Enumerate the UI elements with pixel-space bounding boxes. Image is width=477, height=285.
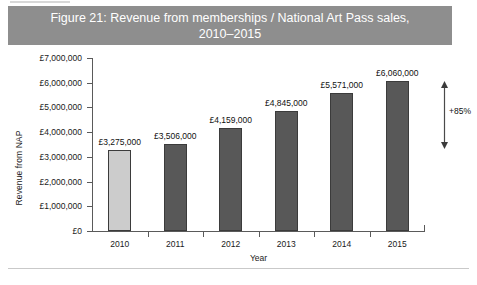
top-edge-artifact (0, 0, 477, 5)
y-axis-tick-label: £1,000,000 (18, 201, 82, 211)
y-axis-tick-label: £6,000,000 (18, 78, 82, 88)
y-axis-tick (87, 182, 92, 183)
y-axis-tick (87, 157, 92, 158)
bar-2010 (108, 150, 131, 231)
figure-title-banner: Figure 21: Revenue from memberships / Na… (8, 6, 452, 45)
x-axis-tick (148, 232, 149, 237)
y-axis-tick (87, 206, 92, 207)
bar-2014 (330, 93, 353, 231)
y-axis-tick (87, 107, 92, 108)
bar-value-label-2012: £4,159,000 (196, 115, 266, 125)
bar-value-label-2013: £4,845,000 (251, 98, 321, 108)
figure-title-line-1: Figure 21: Revenue from memberships / Na… (8, 10, 452, 26)
x-axis-title: Year (92, 253, 425, 263)
x-axis-tick-label-2010: 2010 (92, 239, 148, 249)
chart-plot-area: Revenue from NAP £0£1,000,000£2,000,000£… (0, 45, 477, 267)
bar-2012 (219, 128, 242, 231)
x-axis-tick-label-2012: 2012 (203, 239, 259, 249)
bar-2013 (275, 111, 298, 231)
bar-value-label-2011: £3,506,000 (140, 131, 210, 141)
x-axis-tick (370, 232, 371, 237)
x-axis-tick-label-2014: 2014 (314, 239, 370, 249)
y-axis-tick-label: £0 (18, 226, 82, 236)
x-axis-tick-label-2015: 2015 (369, 239, 425, 249)
y-axis-tick-label: £2,000,000 (18, 177, 82, 187)
bar-2011 (164, 144, 187, 231)
bar-2015 (386, 81, 409, 231)
y-axis-tick-label: £4,000,000 (18, 127, 82, 137)
x-axis-end-tick (424, 225, 425, 232)
growth-arrow-icon (440, 81, 449, 149)
y-axis-tick-label: £7,000,000 (18, 53, 82, 63)
figure-title-line-2: 2010–2015 (8, 26, 452, 42)
x-axis-tick (259, 232, 260, 237)
x-axis-tick (203, 232, 204, 237)
x-axis-tick (314, 232, 315, 237)
footer-divider (8, 268, 469, 269)
bar-value-label-2014: £5,571,000 (307, 80, 377, 90)
y-axis-tick-label: £3,000,000 (18, 152, 82, 162)
y-axis-tick-label: £5,000,000 (18, 102, 82, 112)
y-axis-tick (87, 132, 92, 133)
y-axis-tick (87, 58, 92, 59)
x-axis-tick-label-2013: 2013 (258, 239, 314, 249)
growth-annotation-label: +85% (449, 106, 471, 116)
bar-value-label-2015: £6,060,000 (362, 68, 432, 78)
y-axis-tick (87, 231, 92, 232)
y-axis-tick (87, 83, 92, 84)
x-axis-tick-label-2011: 2011 (147, 239, 203, 249)
figure-container: Figure 21: Revenue from memberships / Na… (0, 0, 477, 285)
